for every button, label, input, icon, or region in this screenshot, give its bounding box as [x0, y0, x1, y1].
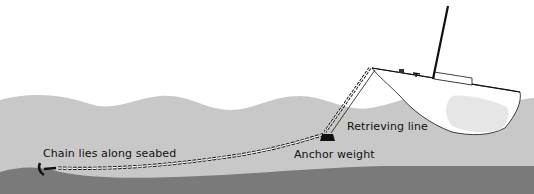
mast-icon	[433, 6, 448, 79]
anchor-diagram	[0, 0, 534, 194]
winch-icon	[399, 69, 404, 73]
anchor-weight-icon	[320, 134, 335, 141]
chain-label: Chain lies along seabed	[43, 147, 176, 160]
retrieving-line-label: Retrieving line	[347, 120, 428, 133]
anchor-weight-label: Anchor weight	[294, 148, 375, 161]
